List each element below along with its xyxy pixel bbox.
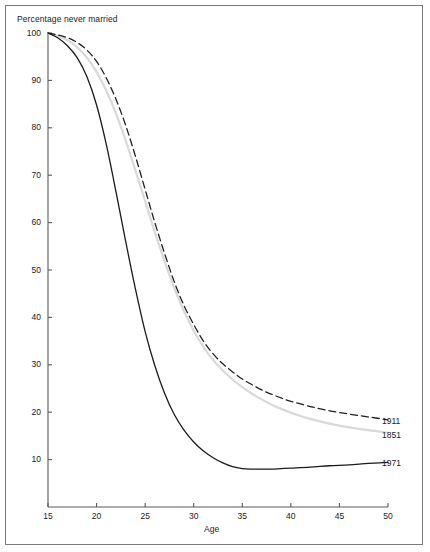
y-tick-label-90: 90 — [15, 75, 41, 85]
x-tick-label-50: 50 — [375, 511, 401, 521]
data-series-group — [48, 33, 388, 469]
y-tick-label-40: 40 — [15, 312, 41, 322]
series-label-1971: 1971 — [382, 458, 401, 468]
y-tick-label-60: 60 — [15, 217, 41, 227]
x-tick-label-15: 15 — [35, 511, 61, 521]
x-tick-label-25: 25 — [132, 511, 158, 521]
y-tick-label-100: 100 — [15, 28, 41, 38]
y-tick-label-50: 50 — [15, 265, 41, 275]
x-tick-label-40: 40 — [278, 511, 304, 521]
chart-plot-area — [0, 0, 430, 552]
y-tick-label-10: 10 — [15, 454, 41, 464]
series-line-1851 — [48, 33, 388, 433]
x-tick-label-45: 45 — [326, 511, 352, 521]
y-axis-ticks — [48, 33, 52, 460]
series-line-1911 — [48, 33, 388, 420]
axis-lines — [48, 33, 388, 507]
x-tick-label-30: 30 — [181, 511, 207, 521]
x-tick-label-20: 20 — [84, 511, 110, 521]
y-axis-title: Percentage never married — [17, 14, 118, 24]
y-tick-label-20: 20 — [15, 407, 41, 417]
x-tick-label-35: 35 — [229, 511, 255, 521]
series-label-1911: 1911 — [382, 416, 400, 426]
chart-figure: Percentage never married Age 10203040506… — [0, 0, 430, 552]
x-axis-ticks — [48, 503, 388, 507]
series-line-1971 — [48, 33, 388, 469]
y-tick-label-30: 30 — [15, 359, 41, 369]
y-tick-label-70: 70 — [15, 170, 41, 180]
y-tick-label-80: 80 — [15, 122, 41, 132]
series-label-1851: 1851 — [382, 430, 401, 440]
x-axis-title: Age — [204, 524, 219, 534]
